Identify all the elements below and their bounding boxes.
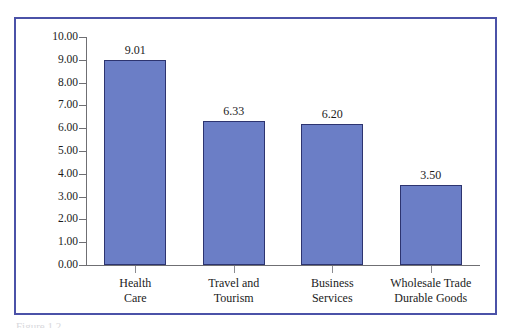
figure-caption: Figure 1.2 — [16, 320, 216, 328]
y-axis-tick-label: 9.00 — [32, 54, 78, 65]
y-axis-tick — [79, 265, 86, 266]
bar-value-label: 3.50 — [391, 169, 471, 182]
bar — [203, 121, 265, 265]
x-axis-category-label: Wholesale TradeDurable Goods — [371, 276, 491, 305]
y-axis-tick-label: 5.00 — [32, 145, 78, 156]
y-axis-tick-label: 1.00 — [32, 236, 78, 247]
y-axis-tick-label: 4.00 — [32, 168, 78, 179]
y-axis-tick-label: 2.00 — [32, 213, 78, 224]
x-axis-tick — [332, 266, 333, 273]
y-axis-tick — [79, 197, 86, 198]
figure-frame: 10.009.008.007.006.005.004.003.002.001.0… — [14, 17, 497, 315]
y-axis-tick-label: 7.00 — [32, 99, 78, 110]
y-axis-tick — [79, 128, 86, 129]
bar — [301, 124, 363, 265]
y-axis-tick — [79, 37, 86, 38]
bar — [400, 185, 462, 265]
x-axis-tick — [135, 266, 136, 273]
y-axis-tick-label: 3.00 — [32, 191, 78, 202]
y-axis-tick — [79, 105, 86, 106]
x-axis-category-label-line: Wholesale Trade — [371, 276, 491, 291]
bar-value-label: 6.20 — [292, 108, 372, 121]
bar-value-label: 9.01 — [95, 44, 175, 57]
y-axis-tick — [79, 174, 86, 175]
y-axis-tick-label: 10.00 — [32, 31, 78, 42]
y-axis-tick — [79, 242, 86, 243]
x-axis-tick — [234, 266, 235, 273]
y-axis-line — [86, 37, 87, 265]
y-axis-tick — [79, 151, 86, 152]
y-axis-tick-label: 0.00 — [32, 259, 78, 270]
y-axis-tick-label: 6.00 — [32, 122, 78, 133]
y-axis-tick-label: 8.00 — [32, 77, 78, 88]
y-axis-tick — [79, 219, 86, 220]
bar — [104, 60, 166, 265]
y-axis-tick — [79, 60, 86, 61]
x-axis-category-label-line: Durable Goods — [371, 291, 491, 306]
bar-value-label: 6.33 — [194, 105, 274, 118]
x-axis-tick — [431, 266, 432, 273]
bar-chart: 10.009.008.007.006.005.004.003.002.001.0… — [16, 19, 499, 317]
y-axis-tick-labels: 10.009.008.007.006.005.004.003.002.001.0… — [24, 19, 78, 279]
x-axis-line — [86, 265, 480, 266]
y-axis-tick — [79, 83, 86, 84]
